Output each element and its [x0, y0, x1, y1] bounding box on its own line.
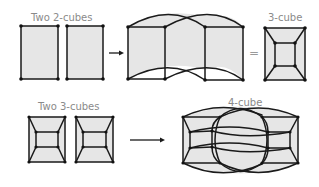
arrow-icon	[109, 51, 124, 56]
label-two-2-cubes: Two 2-cubes	[30, 12, 92, 23]
arrow-icon-2	[130, 138, 165, 143]
four-cube	[181, 107, 299, 174]
square-2	[65, 24, 105, 81]
three-cube	[263, 26, 307, 82]
label-two-3-cubes: Two 3-cubes	[37, 101, 99, 112]
square-1	[19, 24, 60, 81]
label-4-cube: 4-cube	[228, 97, 262, 108]
combined-squares-3d	[126, 13, 245, 82]
hypercube-construction-diagram: Two 2-cubes = 3-cube	[0, 0, 319, 187]
label-3-cube: 3-cube	[268, 12, 302, 23]
three-cube-a	[27, 115, 66, 163]
equals-sign: =	[249, 46, 259, 60]
three-cube-b	[74, 115, 114, 163]
